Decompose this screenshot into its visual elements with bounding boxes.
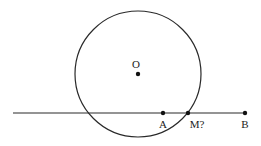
label-o: O [132, 58, 140, 70]
point-a [161, 111, 165, 115]
label-m: M? [190, 118, 205, 130]
point-m [186, 111, 190, 115]
geometry-diagram: O A M? B [0, 0, 261, 146]
point-b [243, 111, 247, 115]
label-a: A [159, 118, 167, 130]
label-b: B [241, 118, 248, 130]
point-o [136, 72, 140, 76]
